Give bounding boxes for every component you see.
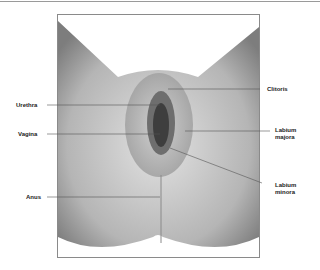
label-labium-minora-line1: Labium xyxy=(275,182,296,189)
label-anus: Anus xyxy=(26,194,41,201)
leader-lines xyxy=(0,0,320,270)
label-labium-majora-line1: Labium xyxy=(275,127,296,134)
label-vagina: Vagina xyxy=(18,131,37,138)
label-labium-majora: Labium majora xyxy=(275,127,296,141)
label-clitoris: Clitoris xyxy=(267,86,288,93)
label-labium-minora: Labium minora xyxy=(275,182,296,196)
label-labium-majora-line2: majora xyxy=(275,134,296,141)
label-labium-minora-line2: minora xyxy=(275,189,296,196)
label-urethra: Urethra xyxy=(16,102,37,109)
